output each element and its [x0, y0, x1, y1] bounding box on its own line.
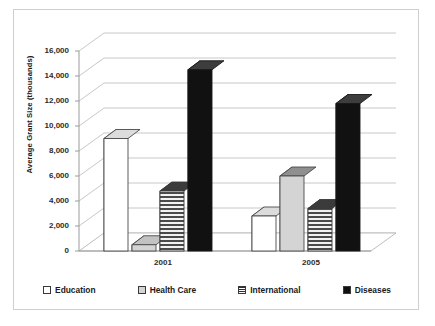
x-tick-label-2005: 2005	[281, 258, 341, 267]
chart-y-axis	[75, 51, 79, 251]
chart-legend: Education Health Care International Dise…	[22, 281, 412, 299]
y-tick-label-10000: 10,000	[23, 121, 69, 130]
x-tick-label-2001: 2001	[133, 258, 193, 267]
y-tick-label-4000: 4,000	[23, 196, 69, 205]
legend-item-international[interactable]: International	[238, 285, 300, 295]
chart-screenshot: Average Grant Size (thousands) 16,000 14…	[0, 0, 435, 326]
y-tick-label-14000: 14,000	[23, 71, 69, 80]
y-tick-label-6000: 6,000	[23, 171, 69, 180]
legend-label-international: International	[250, 285, 300, 295]
legend-item-diseases[interactable]: Diseases	[343, 285, 391, 295]
bar-2005-diseases	[336, 95, 372, 252]
legend-label-diseases: Diseases	[355, 285, 391, 295]
y-tick-label-8000: 8,000	[23, 146, 69, 155]
bar-2001-diseases	[188, 61, 224, 251]
y-tick-label-2000: 2,000	[23, 221, 69, 230]
y-tick-label-12000: 12,000	[23, 96, 69, 105]
y-tick-label-0: 0	[23, 246, 69, 255]
legend-item-health-care[interactable]: Health Care	[138, 285, 197, 295]
y-tick-label-16000: 16,000	[23, 46, 69, 55]
legend-item-education[interactable]: Education	[43, 285, 95, 295]
legend-label-health-care: Health Care	[150, 285, 197, 295]
legend-swatch-diseases-icon	[343, 286, 351, 294]
legend-swatch-health-care-icon	[138, 286, 146, 294]
legend-swatch-education-icon	[43, 286, 51, 294]
legend-swatch-international-icon	[238, 286, 246, 294]
legend-label-education: Education	[55, 285, 95, 295]
